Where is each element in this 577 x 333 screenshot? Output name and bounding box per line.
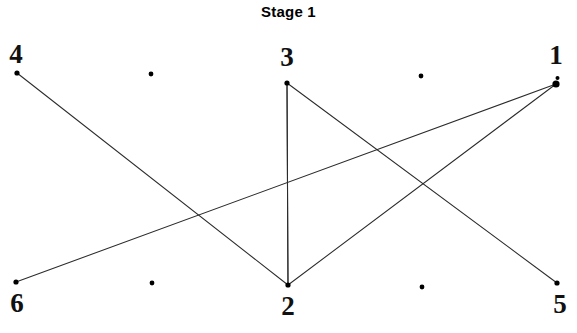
node-marker-6[interactable] [13,279,18,284]
nodes-layer [13,70,559,287]
edges-layer [16,73,557,285]
node-label-2: 2 [281,293,295,320]
node-marker-2[interactable] [285,282,290,287]
node-marker-1-secondary [556,76,560,80]
unlabeled-point-3 [150,281,155,286]
node-marker-3[interactable] [284,80,289,85]
stage-diagram-figure: Stage 1 123456 [0,0,577,333]
edge-4-2 [17,73,288,285]
node-label-6: 6 [10,290,24,317]
unlabeled-points-layer [149,72,425,290]
node-label-5: 5 [553,291,567,318]
node-marker-5[interactable] [554,280,559,285]
node-label-3: 3 [280,44,294,71]
edge-6-1 [16,84,556,282]
node-marker-1[interactable] [552,80,559,87]
node-label-1: 1 [549,42,563,69]
edge-3-2 [287,83,288,285]
unlabeled-point-2 [419,74,424,79]
unlabeled-point-4 [420,285,425,290]
node-label-4: 4 [9,41,23,68]
node-marker-4[interactable] [14,70,19,75]
unlabeled-point-1 [149,72,154,77]
